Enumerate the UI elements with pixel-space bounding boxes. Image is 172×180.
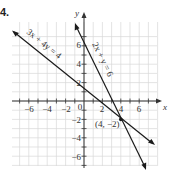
line-3x-plus-4y-eq-4 [14,32,152,143]
y-tick-label: −4 [71,133,81,143]
x-tick-labels: −6 −4 −2 0 2 4 6 [24,102,142,114]
y-tick-label: 6 [77,40,82,50]
y-axis-label: y [74,8,79,18]
line-2x-plus-y-eq-6 [76,26,145,167]
x-tick-label: −2 [61,104,71,114]
intersection-label: (4, −2) [95,119,120,129]
x-tick-label: 0 [78,102,83,112]
x-tick-label: 2 [100,104,105,114]
y-axis-arrow-icon [82,12,87,18]
x-axis-arrow-icon [156,99,162,104]
y-tick-label: −6 [71,152,81,162]
x-tick-label: 6 [137,104,142,114]
x-tick-label: −4 [42,104,52,114]
x-tick-label: −6 [24,104,34,114]
y-tick-label: −2 [71,115,81,125]
x-axis-label: x [162,102,167,112]
coordinate-plane: x y −6 −4 −2 0 2 4 6 2 4 6 −2 −4 −6 3x +… [0,0,172,180]
x-tick-label: 4 [119,104,124,114]
y-tick-label: 4 [77,59,82,69]
